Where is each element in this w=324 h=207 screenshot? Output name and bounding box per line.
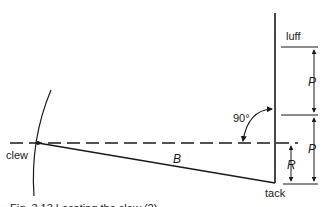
angle-label: 90° <box>233 112 250 124</box>
clew-label: clew <box>6 149 28 161</box>
figure-caption: Fig. 3.13 Locating the clew (2) <box>10 202 157 207</box>
foot-line-B <box>38 143 275 183</box>
tack-label: tack <box>265 187 286 199</box>
p-lower-label: P <box>308 142 316 156</box>
luff-label: luff <box>286 30 301 42</box>
r-label: R <box>287 158 296 172</box>
boom-label-B: B <box>173 152 181 166</box>
p-upper-label: P <box>308 75 316 89</box>
clew-location-diagram: luff clew tack B 90° P P R Fig. 3.13 Loc… <box>0 0 324 207</box>
